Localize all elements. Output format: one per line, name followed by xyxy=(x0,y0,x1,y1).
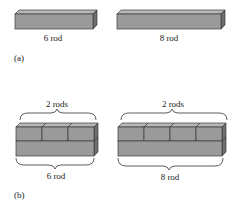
part-a: 6 rod 8 rod (a) xyxy=(14,10,225,63)
rod-top-face xyxy=(15,10,97,14)
top-rod-3-front-face xyxy=(170,127,196,141)
top-rod-3-top-face xyxy=(170,123,200,127)
group-1-bottom-brace xyxy=(16,158,94,169)
group-2-stack xyxy=(118,123,226,156)
rod-8-label: 8 rod xyxy=(160,33,179,43)
top-rod-1-top-face xyxy=(16,123,46,127)
rod-6-label: 6 rod xyxy=(44,33,63,43)
group-2-bottom-label: 8 rod xyxy=(161,172,180,182)
rod-top-face xyxy=(117,10,225,14)
cuisenaire-rods-diagram: 6 rod 8 rod (a) 2 rods 2 rods 6 rod 8 ro… xyxy=(0,0,241,209)
base-rod-front-face xyxy=(16,141,94,156)
group-1-stack xyxy=(16,123,98,156)
rod-front-face xyxy=(15,14,93,29)
top-rod-2-top-face xyxy=(144,123,174,127)
top-rod-2-front-face xyxy=(42,127,68,141)
top-rod-2-top-face xyxy=(42,123,72,127)
part-b: 2 rods 2 rods 6 rod 8 rod (b) xyxy=(14,99,227,200)
group-1-bottom-label: 6 rod xyxy=(47,171,66,181)
base-rod-front-face xyxy=(118,141,222,156)
rod-6 xyxy=(15,10,97,29)
top-rod-3-top-face xyxy=(68,123,98,127)
part-a-label: (a) xyxy=(14,53,24,63)
group-1-top-brace xyxy=(20,109,96,120)
top-rod-4-front-face xyxy=(196,127,222,141)
rod-front-face xyxy=(117,14,221,29)
group-1-top-label: 2 rods xyxy=(46,99,69,109)
top-rod-4-top-face xyxy=(196,123,226,127)
group-2-top-brace xyxy=(121,109,227,120)
part-b-label: (b) xyxy=(14,190,25,200)
group-2-top-label: 2 rods xyxy=(162,99,185,109)
group-2-bottom-brace xyxy=(118,158,223,170)
top-rod-2-front-face xyxy=(144,127,170,141)
top-rod-1-front-face xyxy=(16,127,42,141)
rod-8 xyxy=(117,10,225,29)
top-rod-3-front-face xyxy=(68,127,94,141)
top-rod-1-front-face xyxy=(118,127,144,141)
top-rod-1-top-face xyxy=(118,123,148,127)
